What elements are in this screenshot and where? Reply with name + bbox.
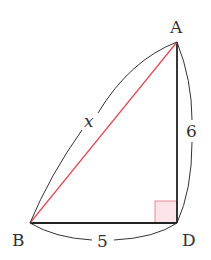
vertex-label-d: D [182, 230, 196, 250]
arc-bd-right [114, 223, 177, 240]
side-ab-hypotenuse [30, 42, 177, 223]
arc-ab-upper [98, 42, 177, 113]
triangle-diagram: A B D 5 6 x [0, 0, 211, 260]
arc-ad-upper [177, 42, 192, 120]
arc-ab-lower [30, 130, 82, 223]
vertex-label-a: A [169, 17, 183, 37]
side-label-ad: 6 [186, 121, 197, 141]
arc-ad-lower [177, 142, 192, 223]
side-label-ab: x [84, 111, 94, 131]
side-label-bd: 5 [97, 231, 108, 251]
right-angle-marker [155, 201, 177, 223]
vertex-label-b: B [12, 230, 25, 250]
arc-bd-left [30, 223, 92, 240]
